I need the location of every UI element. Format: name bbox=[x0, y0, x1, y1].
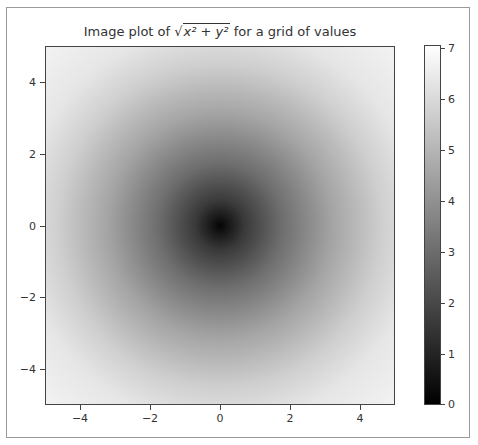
x-tick-label: −4 bbox=[72, 412, 88, 425]
y-tick bbox=[40, 82, 45, 83]
title-suffix: for a grid of values bbox=[230, 24, 357, 39]
colorbar-tick-label: 3 bbox=[448, 246, 455, 259]
y-tick-label: −4 bbox=[20, 363, 36, 376]
colorbar-tick bbox=[441, 99, 445, 100]
colorbar-tick-label: 7 bbox=[448, 42, 455, 55]
colorbar-tick-label: 4 bbox=[448, 195, 455, 208]
colorbar-tick-label: 5 bbox=[448, 144, 455, 157]
y-tick bbox=[40, 226, 45, 227]
colorbar-tick bbox=[441, 48, 445, 49]
colorbar-tick-label: 0 bbox=[448, 398, 455, 411]
colorbar-tick bbox=[441, 252, 445, 253]
colorbar-tick-label: 1 bbox=[448, 348, 455, 361]
colorbar-tick bbox=[441, 201, 445, 202]
x-tick-label: 4 bbox=[357, 412, 364, 425]
x-tick-label: −2 bbox=[142, 412, 158, 425]
chart-title: Image plot of √x² + y² for a grid of val… bbox=[45, 24, 395, 39]
y-tick-label: 4 bbox=[29, 76, 36, 89]
x-tick-label: 0 bbox=[217, 412, 224, 425]
y-tick-label: 2 bbox=[29, 148, 36, 161]
colorbar-tick bbox=[441, 303, 445, 304]
x-tick bbox=[360, 405, 361, 410]
x-tick bbox=[80, 405, 81, 410]
y-tick bbox=[40, 154, 45, 155]
colorbar-tick-label: 6 bbox=[448, 93, 455, 106]
colorbar-tick-label: 2 bbox=[448, 297, 455, 310]
y-tick bbox=[40, 369, 45, 370]
title-formula: x² + y² bbox=[183, 23, 230, 39]
x-tick-label: 2 bbox=[287, 412, 294, 425]
image-plot-area bbox=[45, 46, 395, 405]
y-tick-label: −2 bbox=[20, 291, 36, 304]
colorbar bbox=[424, 45, 441, 405]
x-tick bbox=[290, 405, 291, 410]
x-tick bbox=[150, 405, 151, 410]
colorbar-tick bbox=[441, 354, 445, 355]
y-tick bbox=[40, 297, 45, 298]
sqrt-symbol: √x² + y² bbox=[174, 24, 229, 39]
colorbar-tick bbox=[441, 404, 445, 405]
y-tick-label: 0 bbox=[29, 220, 36, 233]
title-prefix: Image plot of bbox=[84, 24, 175, 39]
x-tick bbox=[220, 405, 221, 410]
colorbar-tick bbox=[441, 150, 445, 151]
